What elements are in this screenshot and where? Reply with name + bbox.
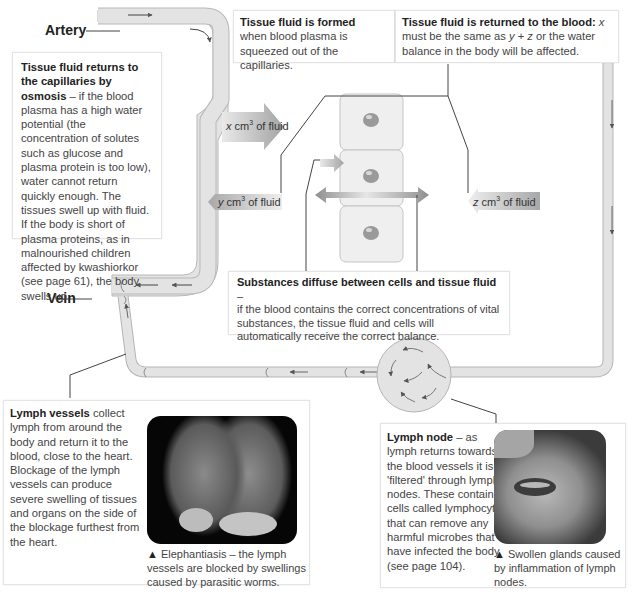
diffuse-title: Substances diffuse between cells and tis… (237, 276, 496, 288)
osmosis-body: – if the blood plasma has a high water p… (21, 90, 151, 302)
returned-title: Tissue fluid is returned to the blood: (402, 16, 596, 28)
lymph-vessels-text: Lymph vessels collect lymph from around … (10, 406, 144, 549)
tissue-fluid-returned-box: Tissue fluid is returned to the blood: x… (395, 10, 619, 63)
lymph-node-text: Lymph node – as lymph returns towards th… (387, 430, 507, 573)
formed-title: Tissue fluid is formed (240, 16, 355, 28)
tissue-cells (340, 94, 403, 262)
lymph-node-info-box: Lymph node – as lymph returns towards th… (380, 423, 626, 588)
elephantiasis-photo (147, 416, 297, 544)
osmosis-info-box: Tissue fluid returns to the capillaries … (12, 52, 162, 239)
swollen-glands-caption: ▲ Swollen glands caused by inflammation … (494, 547, 622, 589)
z-fluid-label: z cm3 of fluid (473, 195, 536, 208)
x-fluid-label: x cm3 of fluid (226, 119, 289, 132)
y-fluid-label: y cm3 of fluid (218, 195, 281, 208)
tissue-fluid-formed-box: Tissue fluid is formed when blood plasma… (233, 10, 395, 63)
lymph-vessels-info-box: Lymph vessels collect lymph from around … (3, 400, 310, 585)
elephantiasis-caption: ▲ Elephantiasis – the lymph vessels are … (147, 547, 307, 589)
swollen-glands-photo (494, 430, 606, 544)
artery-label: Artery (45, 22, 86, 38)
lymph-node-illustration (377, 338, 451, 412)
diffusion-info-box: Substances diffuse between cells and tis… (228, 271, 510, 335)
